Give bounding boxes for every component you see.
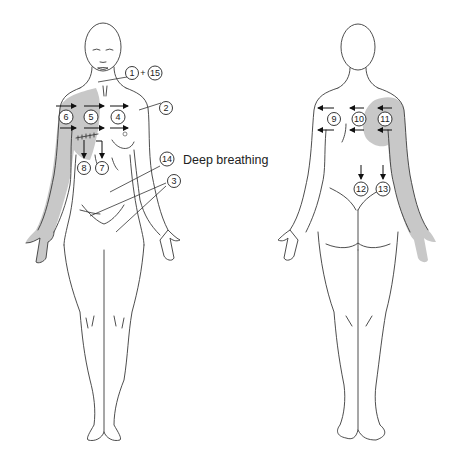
marker-6: 6 — [59, 110, 73, 124]
front-head — [85, 23, 121, 71]
svg-text:10: 10 — [354, 114, 364, 124]
back-head — [341, 24, 375, 70]
front-legs — [64, 245, 144, 441]
marker-9: 9 — [328, 113, 341, 126]
marker-3: 3 — [168, 175, 181, 188]
marker-5: 5 — [84, 110, 98, 124]
marker-1: 1 — [126, 67, 139, 80]
svg-text:15: 15 — [150, 68, 160, 78]
svg-text:5: 5 — [88, 112, 93, 122]
back-view: 9 10 11 12 13 — [278, 24, 436, 440]
svg-text:14: 14 — [162, 154, 172, 164]
marker-7: 7 — [96, 162, 109, 175]
plus-sign: + — [140, 68, 145, 78]
marker-13: 13 — [376, 182, 390, 196]
deep-breathing-label: Deep breathing — [183, 153, 269, 167]
affected-area-back — [363, 97, 436, 262]
svg-text:11: 11 — [380, 114, 389, 124]
marker-8: 8 — [78, 162, 91, 175]
svg-text:3: 3 — [171, 176, 176, 186]
marker-10: 10 — [352, 112, 366, 126]
marker-14: 14 — [160, 152, 174, 166]
front-view: 1 + 15 2 3 4 5 6 7 — [26, 23, 269, 441]
marker-15: 15 — [148, 66, 162, 80]
marker-12: 12 — [354, 182, 368, 196]
svg-text:2: 2 — [163, 103, 168, 113]
svg-text:13: 13 — [378, 184, 388, 194]
svg-text:1: 1 — [129, 68, 134, 78]
svg-text:8: 8 — [81, 163, 86, 173]
svg-text:4: 4 — [115, 112, 120, 122]
marker-11: 11 — [378, 112, 392, 126]
marker-2: 2 — [160, 102, 173, 115]
body-diagram: 1 + 15 2 3 4 5 6 7 — [0, 0, 456, 467]
svg-text:7: 7 — [99, 163, 104, 173]
svg-text:12: 12 — [356, 184, 366, 194]
marker-4: 4 — [111, 110, 125, 124]
svg-text:9: 9 — [331, 114, 336, 124]
svg-text:6: 6 — [63, 112, 68, 122]
